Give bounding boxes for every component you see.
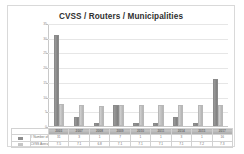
- data-table-body: 200320072008200920102011201420152017# Nu…: [12, 129, 233, 148]
- chart-title: CVSS / Routers / Municipalities: [8, 12, 234, 21]
- table-row-label: CVSS Average: [30, 141, 49, 147]
- table-cell: 7.3: [212, 141, 233, 147]
- plot-area: 05101520253035: [48, 24, 228, 127]
- table-cell: 7.2: [192, 141, 212, 147]
- bar-groups: [49, 24, 228, 126]
- data-table: 200320072008200920102011201420152017# Nu…: [11, 128, 233, 148]
- bar-group: [89, 24, 109, 126]
- table-cell: 7.1: [69, 141, 89, 147]
- bar-cvss-average: [158, 105, 163, 126]
- bar-cvss-average: [59, 104, 64, 126]
- y-axis-tick-mark: [46, 39, 48, 40]
- bar-cvss-average: [119, 105, 124, 126]
- legend-color-swatch: [18, 137, 23, 140]
- y-axis-tick-label: 25: [31, 51, 47, 55]
- table-cell: 7.1: [171, 141, 191, 147]
- table-cell: 7.1: [130, 141, 150, 147]
- bar-group: [148, 24, 168, 126]
- bar-cvss-average: [79, 105, 84, 126]
- bar-group: [49, 24, 69, 126]
- table-cell: 7.1: [110, 141, 130, 147]
- bar-cvss-average: [178, 105, 183, 126]
- y-axis-tick-mark: [46, 53, 48, 54]
- y-axis-tick-label: 10: [31, 96, 47, 100]
- y-axis-tick-mark: [46, 83, 48, 84]
- y-axis-tick-label: 5: [31, 110, 47, 114]
- y-axis-tick-mark: [46, 112, 48, 113]
- y-axis-tick-mark: [46, 24, 48, 25]
- bar-group: [188, 24, 208, 126]
- table-row: CVSS Average7.57.16.87.17.17.17.17.27.3: [12, 141, 233, 147]
- bar-cvss-average: [99, 106, 104, 126]
- y-axis-tick-mark: [46, 68, 48, 69]
- bar-group: [168, 24, 188, 126]
- table-cell: 7.5: [49, 141, 69, 147]
- bar-cvss-average: [218, 105, 223, 126]
- table-row-label: # Number of Municipalities: [30, 135, 49, 141]
- bar-group: [109, 24, 129, 126]
- chart-frame: CVSS / Routers / Municipalities 05101520…: [7, 5, 235, 147]
- legend-color-swatch: [18, 143, 23, 146]
- y-axis-tick-mark: [46, 98, 48, 99]
- table-cell: 6.8: [89, 141, 109, 147]
- bar-group: [129, 24, 149, 126]
- bar-cvss-average: [139, 105, 144, 126]
- y-axis-tick-label: 30: [31, 37, 47, 41]
- bar-group: [208, 24, 228, 126]
- table-cell: 7.1: [151, 141, 171, 147]
- y-axis-tick-label: 15: [31, 81, 47, 85]
- bar-group: [69, 24, 89, 126]
- y-axis-tick-label: 20: [31, 66, 47, 70]
- y-axis-tick-label: 35: [31, 22, 47, 26]
- bar-cvss-average: [198, 105, 203, 126]
- legend-swatch-cell: [12, 141, 31, 147]
